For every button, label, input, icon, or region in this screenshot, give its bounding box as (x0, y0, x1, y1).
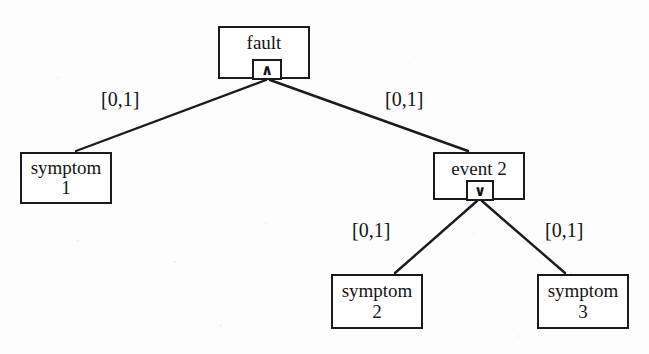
node-symptom-2[interactable]: symptom 2 (331, 274, 423, 329)
or-gate-icon: ∨ (466, 180, 494, 201)
edge-label-fault-symptom1: [0,1] (101, 88, 139, 111)
node-symptom-3-label: symptom 3 (548, 281, 619, 321)
node-symptom-1[interactable]: symptom 1 (20, 152, 112, 204)
or-gate-glyph: ∨ (474, 183, 486, 198)
fault-tree-diagram: fault ∧ symptom 1 event 2 ∨ symptom 2 sy… (0, 0, 649, 354)
node-symptom-1-label: symptom 1 (31, 158, 102, 198)
edge-event2-symptom2 (395, 201, 477, 273)
node-event-2-label: event 2 (451, 154, 506, 179)
edge-label-event2-symptom3: [0,1] (545, 219, 583, 242)
edge-label-event2-symptom2: [0,1] (352, 219, 390, 242)
node-symptom-2-label: symptom 2 (342, 281, 413, 321)
edge-label-fault-event2: [0,1] (385, 88, 423, 111)
node-symptom-3[interactable]: symptom 3 (537, 274, 629, 329)
and-gate-icon: ∧ (252, 59, 282, 80)
and-gate-glyph: ∧ (261, 62, 273, 77)
edge-fault-event2 (270, 80, 468, 151)
node-fault-label: fault (247, 28, 282, 53)
